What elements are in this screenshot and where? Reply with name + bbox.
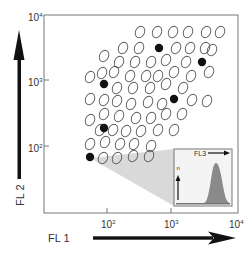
x-tick-label-0: 102	[101, 219, 116, 230]
cell-ellipses	[83, 25, 226, 166]
x-axis-ticks	[107, 208, 171, 213]
y-tick-label-0: 102	[28, 143, 43, 154]
inset-x-label: FL3	[194, 150, 206, 157]
selected-cell	[155, 44, 163, 52]
selected-cell	[100, 80, 108, 88]
selected-cell	[198, 58, 206, 66]
inset-histogram: FL3 n	[174, 149, 232, 206]
x-axis-arrow-icon	[93, 232, 236, 245]
y-axis-arrow-icon	[14, 30, 25, 179]
gate-projection-wedge	[90, 149, 174, 206]
flow-cytometry-figure: 102 103 104 102 103 104	[0, 0, 252, 256]
y-tick-labels: 102 103 104	[28, 12, 43, 154]
x-axis-label: FL 1	[48, 232, 70, 244]
y-tick-label-2: 104	[28, 12, 43, 23]
y-axis-label: FL 2	[14, 184, 26, 206]
y-axis-ticks	[44, 80, 49, 146]
x-tick-labels: 102 103 104	[101, 219, 244, 230]
selected-cell	[170, 95, 178, 103]
x-tick-label-2: 104	[229, 219, 244, 230]
selected-cell	[100, 124, 108, 132]
y-tick-label-1: 103	[28, 77, 43, 88]
x-tick-label-1: 103	[164, 219, 179, 230]
selected-cell	[86, 153, 94, 161]
inset-y-label: n	[177, 165, 180, 171]
